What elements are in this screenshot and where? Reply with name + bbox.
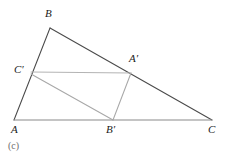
segment-cprime-bprime bbox=[31, 74, 113, 120]
vertex-label-b-prime: B′ bbox=[106, 124, 115, 135]
segment-aprime-bprime bbox=[113, 73, 131, 120]
geometry-figure-panel: B C′ A′ A B′ C (c) bbox=[0, 0, 226, 161]
geometry-diagram bbox=[0, 0, 226, 161]
panel-caption: (c) bbox=[8, 141, 19, 151]
vertex-label-c: C bbox=[208, 124, 215, 135]
vertex-label-c-prime: C′ bbox=[14, 64, 24, 75]
segment-cprime-aprime bbox=[31, 72, 131, 73]
vertex-label-a-prime: A′ bbox=[129, 53, 138, 64]
vertex-label-b: B bbox=[45, 8, 52, 19]
vertex-label-a: A bbox=[11, 124, 18, 135]
